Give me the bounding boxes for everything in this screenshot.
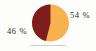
pie-chart	[32, 4, 69, 42]
pie-chart-svg	[32, 4, 69, 42]
pie-chart-figure: 46 % 54 %	[0, 0, 96, 51]
pie-data-label-right: 54 %	[70, 11, 90, 20]
figure-baseline-rule	[30, 45, 66, 46]
pie-data-label-left: 46 %	[7, 27, 27, 36]
